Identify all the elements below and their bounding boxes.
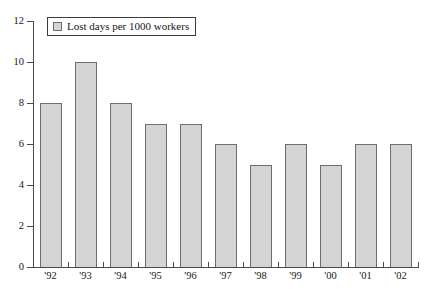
x-axis-tick [68,262,69,268]
bar [180,124,202,268]
x-axis-tick [383,262,384,268]
y-axis-label: 0 [0,262,24,273]
x-axis-tick [208,262,209,268]
bar [250,165,272,268]
x-axis-tick [103,262,104,268]
x-axis-label: '96 [174,270,208,283]
x-axis-label: '98 [244,270,278,283]
bar [215,144,237,267]
y-axis-tick [27,226,33,227]
x-axis-tick [348,262,349,268]
x-axis-tick [278,262,279,268]
y-axis-tick [27,103,33,104]
y-axis-line [33,21,34,268]
x-axis-tick [418,262,419,268]
y-axis-label: 10 [0,57,24,68]
bar [110,103,132,267]
y-axis-label: 6 [0,139,24,150]
x-axis-tick [173,262,174,268]
y-axis-label: 4 [0,180,24,191]
x-axis-label: '01 [349,270,383,283]
bar [145,124,167,268]
y-axis-tick [27,21,33,22]
x-axis-label: '93 [69,270,103,283]
bar [40,103,62,267]
legend-swatch-icon [53,22,62,31]
bar [75,62,97,267]
x-axis-label: '97 [209,270,243,283]
x-axis-tick [138,262,139,268]
x-axis-tick [33,262,34,268]
x-axis-label: '02 [384,270,418,283]
x-axis-line [33,267,418,268]
x-axis-label: '94 [104,270,138,283]
y-axis-tick [27,185,33,186]
bar [320,165,342,268]
legend-label: Lost days per 1000 workers [67,21,189,32]
bar [390,144,412,267]
x-axis-label: '99 [279,270,313,283]
x-axis-label: '00 [314,270,348,283]
x-axis-tick [243,262,244,268]
bar [285,144,307,267]
y-axis-label: 2 [0,221,24,232]
y-axis-tick [27,62,33,63]
y-axis-label: 8 [0,98,24,109]
chart-legend: Lost days per 1000 workers [47,17,196,36]
y-axis-tick [27,144,33,145]
x-axis-label: '95 [139,270,173,283]
y-axis-label: 12 [0,16,24,27]
bar-chart: Lost days per 1000 workers 024681012 '92… [0,0,436,289]
bar [355,144,377,267]
x-axis-tick [313,262,314,268]
x-axis-label: '92 [34,270,68,283]
